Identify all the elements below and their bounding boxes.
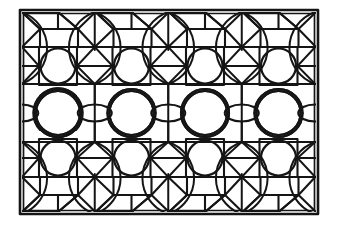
- geometric-lattice-pattern: [0, 0, 337, 227]
- artwork-canvas: Geometric Lattice Grille Pattern Rectang…: [0, 0, 337, 227]
